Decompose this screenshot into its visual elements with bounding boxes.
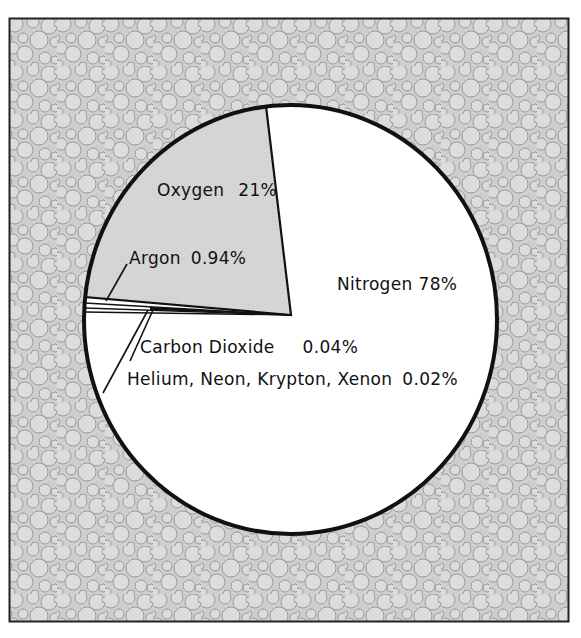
label-trace-gases: Helium, Neon, Krypton, Xenon0.02% [127, 369, 458, 389]
label-oxygen: Oxygen21% [157, 180, 277, 200]
label-nitrogen: Nitrogen78% [337, 274, 457, 294]
atmosphere-pie-chart: Oxygen21% Argon0.94% Nitrogen78% Carbon … [0, 0, 581, 638]
label-co2: Carbon Dioxide0.04% [140, 337, 358, 357]
